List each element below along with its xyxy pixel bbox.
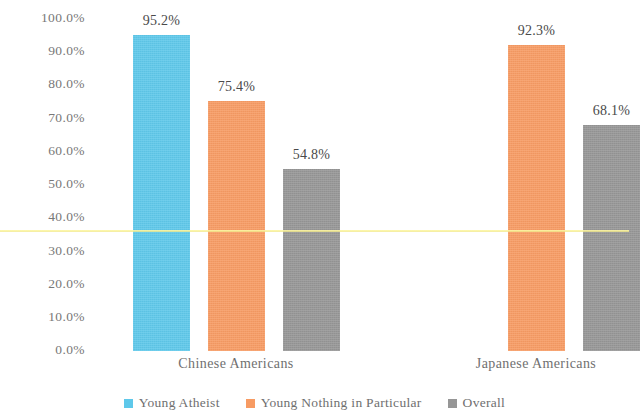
bar-chinese-americans-overall [283, 169, 340, 351]
bar-value-label: 95.2% [143, 13, 181, 28]
y-tick-label: 60.0% [48, 144, 85, 158]
y-tick-label: 40.0% [48, 210, 85, 224]
legend-item-young-atheist[interactable]: Young Atheist [124, 395, 220, 411]
y-axis: 100.0% 90.0% 80.0% 70.0% 60.0% 50.0% 40.… [0, 0, 95, 360]
category-label-chinese-americans: Chinese Americans [178, 355, 293, 373]
legend-swatch-icon [448, 399, 457, 408]
bar-japanese-americans-overall [583, 125, 640, 351]
y-tick-label: 50.0% [48, 177, 85, 191]
bar-value-label: 92.3% [518, 23, 556, 38]
bar-value-label: 54.8% [293, 147, 331, 162]
legend-item-label: Young Atheist [139, 395, 220, 411]
plot-area: 95.2% 75.4% 54.8% 92.3% 68.1% [95, 0, 629, 351]
y-tick-label: 100.0% [41, 11, 85, 25]
bar-value-label: 68.1% [593, 103, 631, 118]
legend-item-label: Overall [463, 395, 506, 411]
bar-japanese-americans-young-nothing-in-particular [508, 45, 565, 351]
y-tick-label: 0.0% [55, 343, 85, 357]
legend-item-label: Young Nothing in Particular [261, 395, 422, 411]
category-label-japanese-americans: Japanese Americans [476, 355, 596, 373]
y-tick-label: 80.0% [48, 77, 85, 91]
x-axis-category-labels: Chinese Americans Japanese Americans [95, 355, 629, 381]
legend: Young Atheist Young Nothing in Particula… [0, 392, 629, 414]
y-tick-label: 20.0% [48, 277, 85, 291]
bar-chinese-americans-young-nothing-in-particular [208, 101, 265, 351]
legend-swatch-icon [246, 399, 255, 408]
legend-swatch-icon [124, 399, 133, 408]
y-tick-label: 30.0% [48, 244, 85, 258]
bar-value-label: 75.4% [218, 79, 256, 94]
bar-chinese-americans-young-atheist [133, 35, 190, 351]
legend-item-overall[interactable]: Overall [448, 395, 506, 411]
legend-item-young-nothing-in-particular[interactable]: Young Nothing in Particular [246, 395, 422, 411]
y-tick-label: 90.0% [48, 44, 85, 58]
y-tick-label: 10.0% [48, 310, 85, 324]
y-tick-label: 70.0% [48, 111, 85, 125]
